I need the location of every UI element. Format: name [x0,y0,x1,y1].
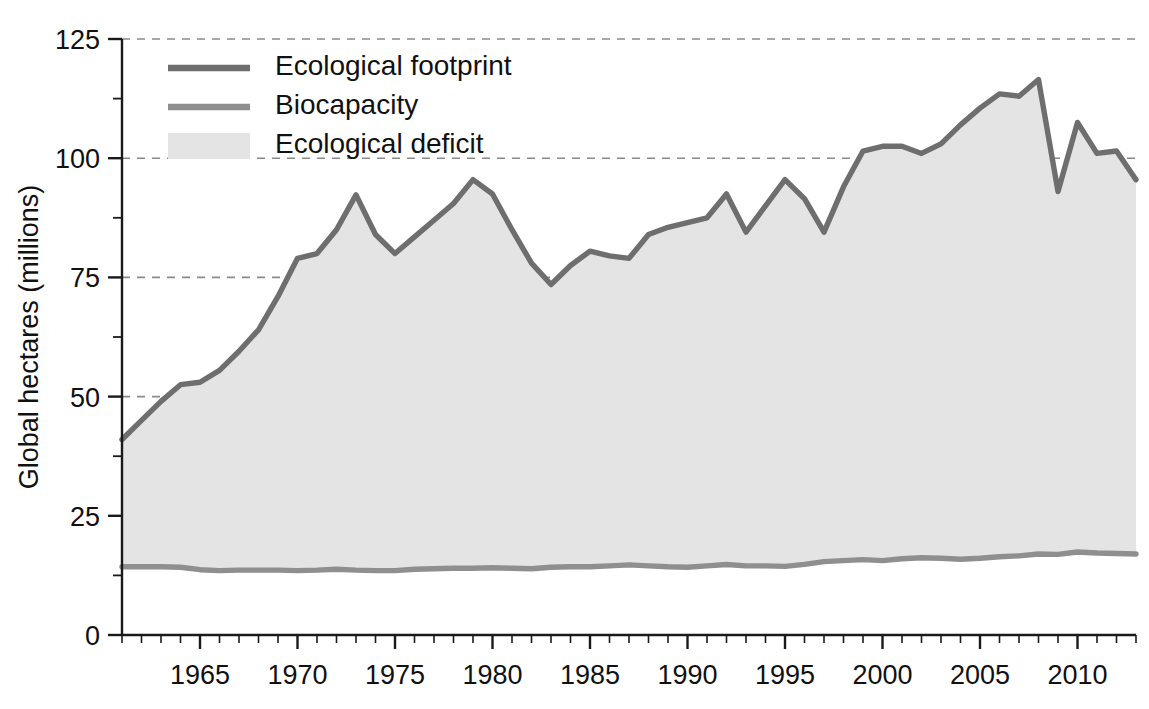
y-tick-label-50: 50 [70,383,100,413]
x-tick-label-2000: 2000 [852,660,912,690]
y-tick-label-0: 0 [85,621,100,651]
ecological-footprint-area-chart: 0255075100125 19651970197519801985199019… [0,0,1149,709]
x-tick-label-2005: 2005 [950,660,1010,690]
y-tick-label-75: 75 [70,263,100,293]
legend-marker-swatch-2 [168,133,250,159]
x-tick-label-1980: 1980 [462,660,522,690]
legend-label-1: Biocapacity [275,89,418,120]
y-tick-label-125: 125 [55,25,100,55]
chart-figure: 0255075100125 19651970197519801985199019… [0,0,1149,709]
legend-label-2: Ecological deficit [275,128,484,159]
x-tick-label-1965: 1965 [170,660,230,690]
x-tick-label-1985: 1985 [560,660,620,690]
x-tick-label-2010: 2010 [1047,660,1107,690]
x-tick-label-1995: 1995 [755,660,815,690]
y-tick-label-25: 25 [70,502,100,532]
legend-label-0: Ecological footprint [275,50,512,81]
x-tick-label-1990: 1990 [657,660,717,690]
y-tick-label-100: 100 [55,144,100,174]
x-tick-label-1970: 1970 [267,660,327,690]
y-axis-title: Global hectares (millions) [14,185,44,490]
x-tick-label-1975: 1975 [365,660,425,690]
